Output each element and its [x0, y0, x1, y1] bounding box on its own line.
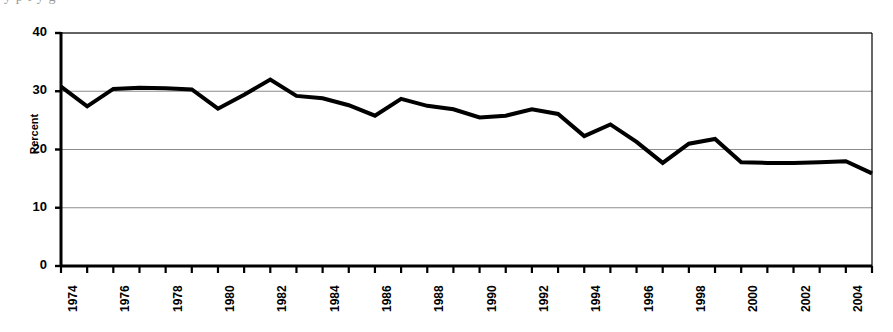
- x-tick-label-1976: 1976: [118, 285, 132, 312]
- x-tick-label-1988: 1988: [432, 285, 446, 312]
- y-tick-label-40: 40: [11, 24, 47, 39]
- y-tick-label-10: 10: [11, 199, 47, 214]
- x-tick-label-1998: 1998: [694, 285, 708, 312]
- x-tick-label-1990: 1990: [485, 285, 499, 312]
- x-tick-label-1982: 1982: [275, 285, 289, 312]
- x-tick-label-1986: 1986: [380, 285, 394, 312]
- x-tick-label-2000: 2000: [746, 285, 760, 312]
- y-tick-label-20: 20: [11, 141, 47, 156]
- x-tick-label-2002: 2002: [799, 285, 813, 312]
- x-tick-label-2004: 2004: [851, 285, 865, 312]
- x-tick-label-1978: 1978: [171, 285, 185, 312]
- x-tick-label-1996: 1996: [642, 285, 656, 312]
- x-tick-label-1992: 1992: [537, 285, 551, 312]
- y-tick-label-30: 30: [11, 82, 47, 97]
- data-series-line: [61, 80, 872, 174]
- x-tick-label-1980: 1980: [223, 285, 237, 312]
- x-tick-label-1994: 1994: [589, 285, 603, 312]
- y-tick-label-0: 0: [11, 257, 47, 272]
- x-tick-label-1984: 1984: [328, 285, 342, 312]
- gridlines-group: [61, 33, 872, 208]
- line-chart-plot: [0, 0, 893, 332]
- chart-figure: y p f y g Percent 010203040 197419761978…: [0, 0, 893, 332]
- x-tick-label-1974: 1974: [66, 285, 80, 312]
